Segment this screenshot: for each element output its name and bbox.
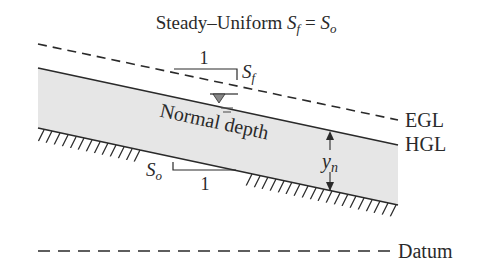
friction-slope-indicator: 1 Sf (174, 48, 258, 85)
water-flow-region (38, 68, 398, 205)
friction-slope-rise-label: Sf (242, 61, 258, 85)
datum-label: Datum (398, 240, 453, 262)
open-channel-flow-diagram: Steady–Uniform Sf = So (0, 0, 491, 278)
diagram-title: Steady–Uniform Sf = So (156, 12, 337, 36)
bed-slope-rise-label: So (146, 159, 163, 183)
hgl-label: HGL (405, 133, 446, 155)
bed-slope-run-label: 1 (201, 174, 210, 194)
friction-slope-run-label: 1 (200, 48, 209, 68)
egl-label: EGL (405, 109, 444, 131)
